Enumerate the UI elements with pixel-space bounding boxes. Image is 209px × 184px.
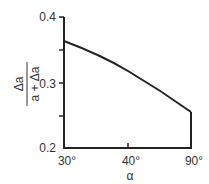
- x-axis-label: α: [127, 169, 134, 183]
- x-tick-label-40: 40°: [122, 154, 140, 168]
- y-axis-label-numerator: Δa: [12, 76, 26, 91]
- x-tick-label-30: 30°: [58, 154, 76, 168]
- y-tick-label-0.4: 0.4: [39, 10, 56, 24]
- y-axis-label-denominator: a + Δa: [28, 66, 42, 101]
- y-axis-label: Δa a + Δa: [12, 62, 42, 106]
- x-tick-label-90: 90°: [185, 154, 203, 168]
- chart: 0.4 0.3 0.2 30° 40° 90° α Δa a + Δa: [0, 0, 209, 184]
- y-tick-label-0.2: 0.2: [39, 141, 56, 155]
- data-line: [64, 41, 191, 112]
